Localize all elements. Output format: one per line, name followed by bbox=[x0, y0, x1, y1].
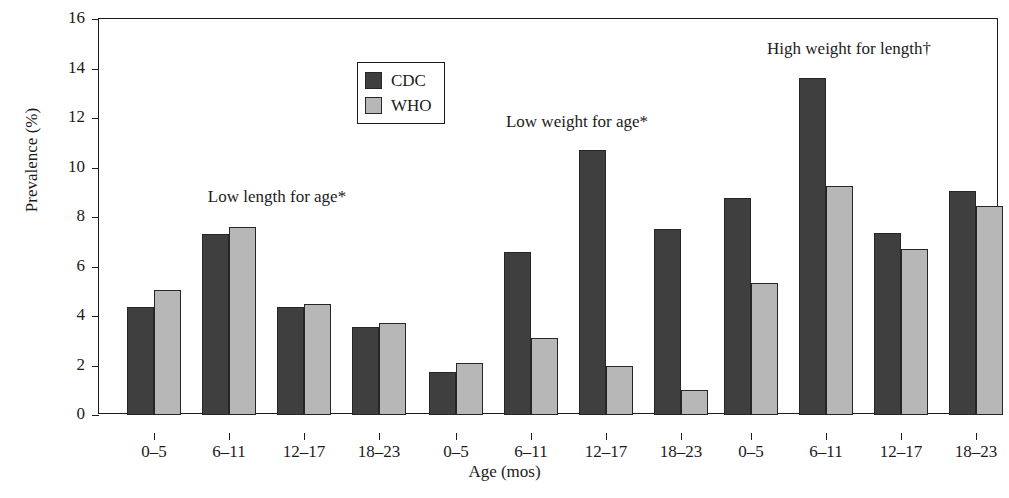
bar-cdc bbox=[579, 150, 606, 415]
bar-who bbox=[304, 304, 331, 415]
x-tick-label: 0–5 bbox=[711, 442, 791, 462]
bar-who bbox=[379, 323, 406, 415]
x-tick-mark bbox=[456, 433, 457, 440]
y-tick-mark bbox=[92, 168, 99, 169]
group-annotation-2: High weight for length† bbox=[767, 39, 931, 59]
x-tick-mark bbox=[379, 433, 380, 440]
x-axis-title: Age (mos) bbox=[0, 462, 1009, 482]
x-tick-label: 0–5 bbox=[416, 442, 496, 462]
bar-cdc bbox=[277, 307, 304, 415]
legend-label-who: WHO bbox=[391, 97, 432, 114]
group-annotation-0: Low length for age* bbox=[208, 187, 346, 207]
y-tick-label: 4 bbox=[45, 305, 85, 325]
y-axis-title: Prevalence (%) bbox=[22, 60, 42, 260]
bar-chart: Prevalence (%) Age (mos) 0246810121416 0… bbox=[0, 0, 1009, 498]
group-annotation-1: Low weight for age* bbox=[506, 112, 648, 132]
bar-cdc bbox=[874, 233, 901, 415]
x-tick-mark bbox=[154, 433, 155, 440]
x-tick-mark bbox=[531, 433, 532, 440]
x-tick-label: 6–11 bbox=[491, 442, 571, 462]
y-tick-label: 16 bbox=[45, 8, 85, 28]
bar-who bbox=[826, 186, 853, 415]
bar-who bbox=[456, 363, 483, 415]
x-tick-mark bbox=[681, 433, 682, 440]
x-tick-mark bbox=[229, 433, 230, 440]
bar-cdc bbox=[429, 372, 456, 415]
x-tick-label: 6–11 bbox=[786, 442, 866, 462]
x-tick-label: 12–17 bbox=[861, 442, 941, 462]
bar-cdc bbox=[724, 198, 751, 415]
bar-cdc bbox=[799, 78, 826, 415]
bar-who bbox=[751, 283, 778, 415]
y-tick-mark bbox=[92, 316, 99, 317]
bar-cdc bbox=[352, 327, 379, 415]
x-tick-mark bbox=[976, 433, 977, 440]
legend-item-who: WHO bbox=[365, 93, 432, 118]
y-tick-label: 6 bbox=[45, 256, 85, 276]
x-tick-label: 18–23 bbox=[936, 442, 1009, 462]
bar-cdc bbox=[202, 234, 229, 415]
bar-cdc bbox=[504, 252, 531, 415]
x-tick-label: 12–17 bbox=[566, 442, 646, 462]
legend-item-cdc: CDC bbox=[365, 68, 432, 93]
x-tick-label: 0–5 bbox=[114, 442, 194, 462]
bar-who bbox=[976, 206, 1003, 415]
x-tick-label: 12–17 bbox=[264, 442, 344, 462]
y-tick-label: 2 bbox=[45, 355, 85, 375]
bar-cdc bbox=[127, 307, 154, 415]
y-tick-label: 12 bbox=[45, 107, 85, 127]
bar-who bbox=[606, 366, 633, 416]
legend-label-cdc: CDC bbox=[391, 72, 426, 89]
x-tick-mark bbox=[304, 433, 305, 440]
y-tick-mark bbox=[92, 19, 99, 20]
legend: CDC WHO bbox=[357, 62, 445, 124]
y-tick-mark bbox=[92, 217, 99, 218]
legend-swatch-who bbox=[365, 97, 382, 114]
bar-who bbox=[681, 390, 708, 415]
bar-cdc bbox=[654, 229, 681, 415]
bar-who bbox=[229, 227, 256, 415]
plot-area: 0246810121416 0–56–1112–1718–230–56–1112… bbox=[98, 18, 998, 414]
x-tick-mark bbox=[606, 433, 607, 440]
y-tick-label: 10 bbox=[45, 157, 85, 177]
y-tick-mark bbox=[92, 69, 99, 70]
bar-who bbox=[154, 290, 181, 415]
y-tick-label: 0 bbox=[45, 404, 85, 424]
bar-who bbox=[901, 249, 928, 415]
y-tick-mark bbox=[92, 415, 99, 416]
y-tick-label: 14 bbox=[45, 58, 85, 78]
y-tick-mark bbox=[92, 267, 99, 268]
y-tick-label: 8 bbox=[45, 206, 85, 226]
x-tick-mark bbox=[901, 433, 902, 440]
x-tick-mark bbox=[826, 433, 827, 440]
legend-swatch-cdc bbox=[365, 72, 382, 89]
x-tick-label: 6–11 bbox=[189, 442, 269, 462]
y-tick-mark bbox=[92, 366, 99, 367]
x-tick-label: 18–23 bbox=[641, 442, 721, 462]
x-tick-label: 18–23 bbox=[339, 442, 419, 462]
bar-who bbox=[531, 338, 558, 415]
y-tick-mark bbox=[92, 118, 99, 119]
x-tick-mark bbox=[751, 433, 752, 440]
bar-cdc bbox=[949, 191, 976, 415]
